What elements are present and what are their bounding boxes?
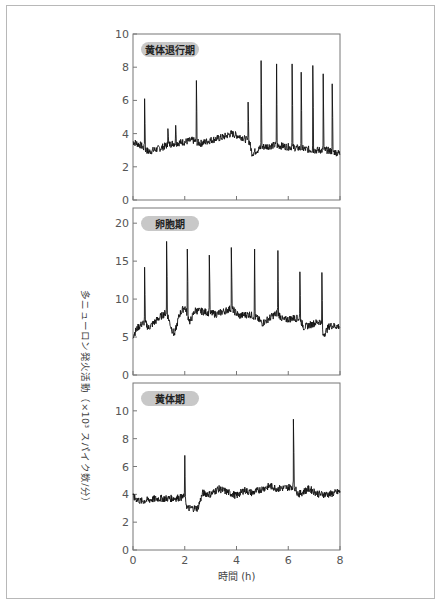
plot-frame bbox=[133, 383, 340, 550]
y-tick-label: 6 bbox=[122, 461, 129, 474]
chart-canvas: 0246810黄体退行期05101520卵胞期024681002468黄体期 bbox=[0, 0, 440, 605]
y-axis-label: 多ニューロン発火活動（×10³ スパイク数/分） bbox=[79, 290, 93, 507]
y-tick-label: 0 bbox=[122, 544, 129, 557]
y-tick-label: 0 bbox=[122, 369, 129, 382]
x-tick-label: 2 bbox=[181, 554, 188, 567]
activity-trace bbox=[133, 419, 340, 512]
y-tick-label: 4 bbox=[122, 488, 129, 501]
activity-trace bbox=[133, 241, 340, 338]
y-tick-label: 6 bbox=[122, 94, 129, 107]
x-tick-label: 8 bbox=[337, 554, 344, 567]
plot-frame bbox=[133, 34, 340, 200]
y-tick-label: 10 bbox=[115, 405, 129, 418]
x-tick-label: 6 bbox=[285, 554, 292, 567]
activity-trace bbox=[133, 61, 340, 157]
x-tick-label: 4 bbox=[233, 554, 240, 567]
phase-label: 黄体退行期 bbox=[145, 44, 195, 56]
y-tick-label: 0 bbox=[122, 194, 129, 207]
y-tick-label: 10 bbox=[115, 293, 129, 306]
y-tick-label: 4 bbox=[122, 128, 129, 141]
y-tick-label: 8 bbox=[122, 433, 129, 446]
y-tick-label: 10 bbox=[115, 28, 129, 41]
plot-frame bbox=[133, 208, 340, 375]
y-tick-label: 2 bbox=[122, 161, 129, 174]
y-tick-label: 5 bbox=[122, 331, 129, 344]
chart-panel-1: 0246810黄体退行期 bbox=[115, 28, 340, 207]
y-tick-label: 20 bbox=[115, 217, 129, 230]
x-axis-label: 時間 (h) bbox=[218, 568, 255, 583]
chart-panel-3: 024681002468黄体期 bbox=[115, 383, 344, 567]
phase-label: 卵胞期 bbox=[155, 218, 185, 230]
chart-panel-2: 05101520卵胞期 bbox=[115, 208, 340, 382]
y-tick-label: 8 bbox=[122, 61, 129, 74]
y-tick-label: 2 bbox=[122, 516, 129, 529]
x-tick-label: 0 bbox=[130, 554, 137, 567]
phase-label: 黄体期 bbox=[155, 393, 185, 405]
y-tick-label: 15 bbox=[115, 255, 129, 268]
